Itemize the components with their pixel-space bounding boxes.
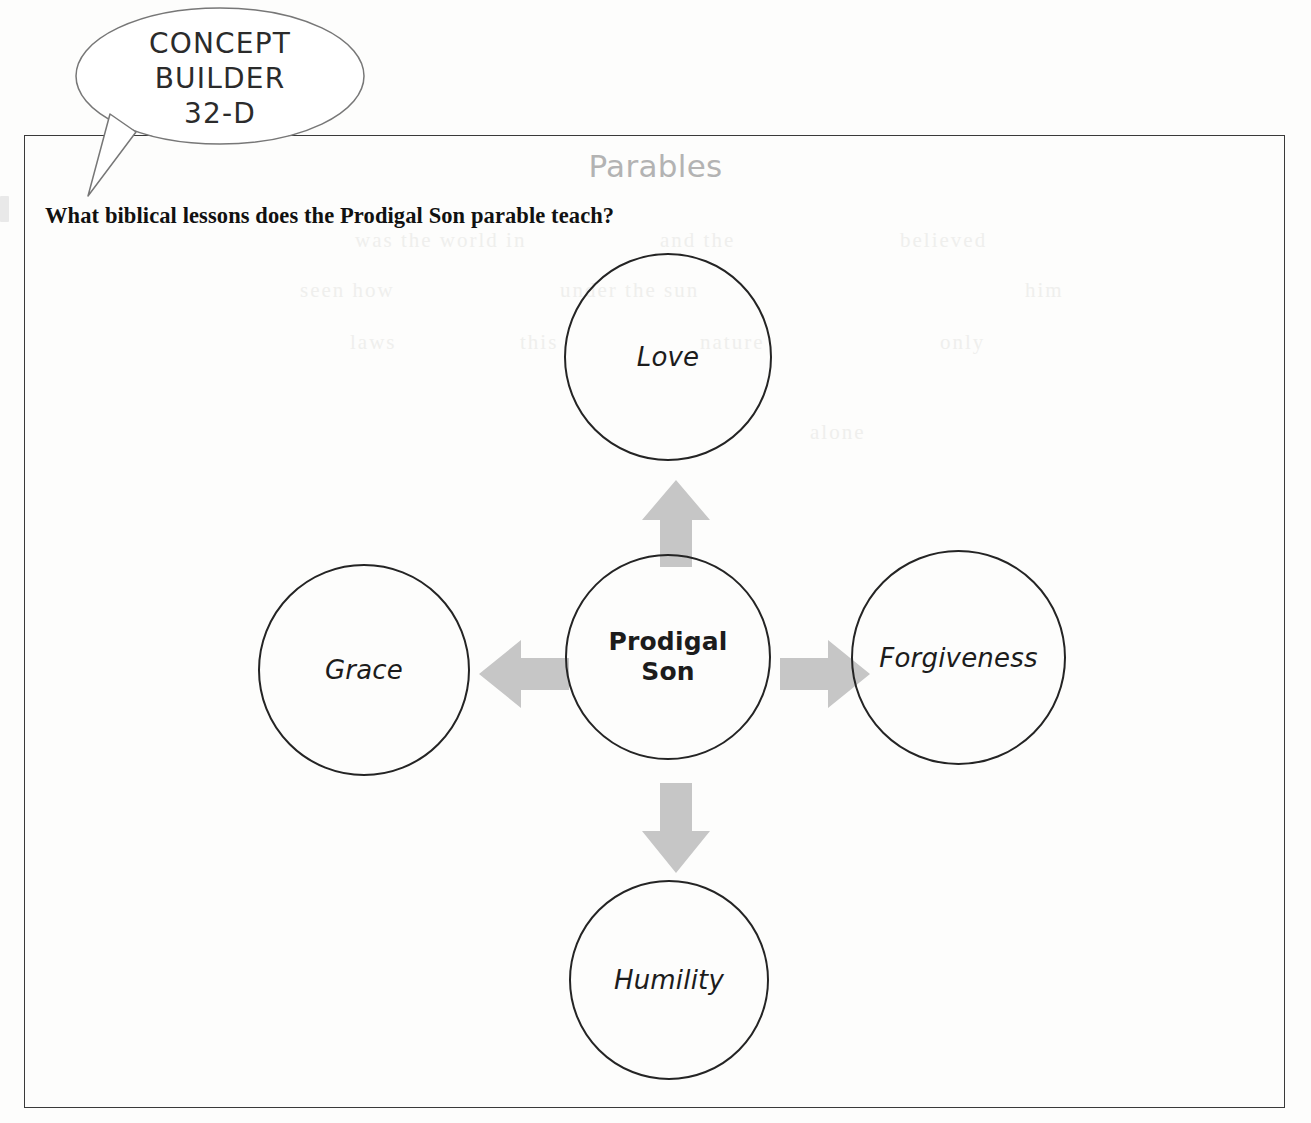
badge-line-2: BUILDER [74,61,366,96]
node-center-label-line-1: Prodigal [608,627,727,656]
node-love-label: Love [637,342,700,372]
badge-line-1: CONCEPT [74,26,366,61]
prompt-question: What biblical lessons does the Prodigal … [45,203,614,229]
node-love[interactable]: Love [564,253,772,461]
arrow-center-to-humility [642,783,710,873]
node-center-label-line-2: Son [641,657,695,686]
concept-builder-badge: CONCEPT BUILDER 32-D [74,6,366,146]
node-grace-label: Grace [325,655,403,685]
node-forgiveness[interactable]: Forgiveness [851,550,1066,765]
node-forgiveness-label: Forgiveness [879,643,1037,673]
node-humility-label: Humility [614,965,724,995]
badge-line-3: 32-D [74,96,366,131]
node-center-prodigal-son[interactable]: Prodigal Son [565,554,771,760]
page-edge-bleed-mark [0,196,9,222]
concept-diagram: Love Grace Prodigal Son Forgiveness Humi… [24,135,1285,1108]
node-humility[interactable]: Humility [569,880,769,1080]
badge-text: CONCEPT BUILDER 32-D [74,26,366,131]
node-grace[interactable]: Grace [258,564,470,776]
node-center-label: Prodigal Son [608,627,727,687]
arrow-center-to-grace [479,640,569,708]
